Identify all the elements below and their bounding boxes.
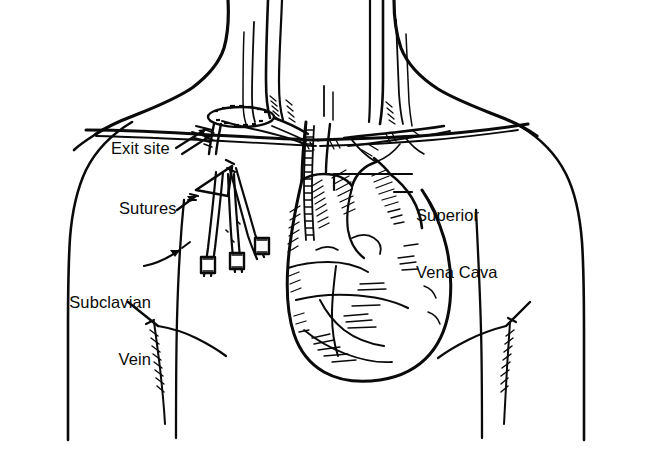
label-superior-vena-cava-line1: Superior [416, 206, 498, 225]
medical-illustration-figure: Exit site Sutures Subclavian Vein Superi… [0, 0, 652, 450]
label-superior-vena-cava: Superior Vena Cava [416, 168, 498, 320]
label-subclavian-vein-line1: Subclavian [47, 293, 151, 312]
label-sutures: Sutures [119, 199, 177, 218]
label-exit-site: Exit site [111, 139, 170, 158]
label-superior-vena-cava-line2: Vena Cava [416, 263, 498, 282]
label-subclavian-vein: Subclavian Vein [47, 255, 151, 407]
label-subclavian-vein-line2: Vein [47, 350, 151, 369]
